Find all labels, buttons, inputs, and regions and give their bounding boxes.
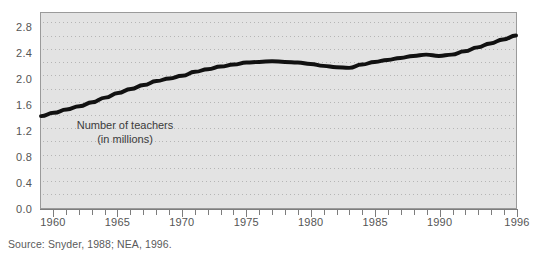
x-axis-line (40, 209, 517, 210)
x-tick-1961 (66, 209, 67, 215)
series-annotation: Number of teachers (in millions) (70, 118, 180, 146)
x-tick-1964 (105, 209, 106, 215)
y-tick-label-0.4: 0.4 (16, 178, 32, 189)
y-tick-label-0.8: 0.8 (16, 152, 32, 163)
x-tick-1988 (414, 209, 415, 215)
data-series-line (41, 13, 516, 208)
x-tick-1969 (169, 209, 170, 215)
series-annotation-line2: (in millions) (70, 132, 180, 146)
x-tick-1962 (79, 209, 80, 215)
x-tick-1994 (491, 209, 492, 215)
x-tick-1967 (143, 209, 144, 215)
x-tick-label-1985: 1985 (363, 216, 388, 229)
x-tick-1977 (272, 209, 273, 215)
series-annotation-line1: Number of teachers (77, 119, 174, 131)
y-tick-label-2.0: 2.0 (16, 74, 32, 85)
x-tick-1993 (478, 209, 479, 215)
teachers-line-chart-figure: 2.8 2.4 2.0 1.6 1.2 0.8 0.4 0.0 Number o… (0, 0, 538, 258)
x-tick-1973 (221, 209, 222, 215)
y-tick-label-2.4: 2.4 (16, 48, 32, 59)
x-tick-1981 (324, 209, 325, 215)
y-tick-label-2.8: 2.8 (16, 22, 32, 33)
x-tick-label-1980: 1980 (298, 216, 323, 229)
x-tick-1987 (401, 209, 402, 215)
x-tick-1986 (388, 209, 389, 215)
x-tick-1984 (362, 209, 363, 215)
plot-area (40, 12, 517, 209)
x-tick-1968 (156, 209, 157, 215)
y-tick-label-1.2: 1.2 (16, 126, 32, 137)
x-tick-1989 (427, 209, 428, 215)
y-tick-label-0.0: 0.0 (16, 204, 32, 215)
x-tick-1983 (349, 209, 350, 215)
x-tick-1972 (208, 209, 209, 215)
x-tick-label-1990: 1990 (427, 216, 452, 229)
x-tick-label-1996: 1996 (504, 216, 529, 229)
x-tick-1963 (92, 209, 93, 215)
x-tick-1995 (504, 209, 505, 215)
x-tick-1992 (465, 209, 466, 215)
x-tick-1966 (130, 209, 131, 215)
x-tick-1991 (453, 209, 454, 215)
x-tick-1971 (195, 209, 196, 215)
source-note: Source: Snyder, 1988; NEA, 1996. (8, 238, 172, 251)
x-tick-1979 (298, 209, 299, 215)
x-tick-1978 (285, 209, 286, 215)
x-axis-labels: 19601965197019751980198519901996 (0, 216, 538, 232)
x-tick-label-1970: 1970 (169, 216, 194, 229)
x-tick-label-1975: 1975 (234, 216, 259, 229)
x-tick-1976 (259, 209, 260, 215)
y-tick-label-1.6: 1.6 (16, 100, 32, 111)
x-tick-label-1965: 1965 (105, 216, 130, 229)
x-tick-1982 (337, 209, 338, 215)
x-tick-1974 (233, 209, 234, 215)
x-tick-label-1960: 1960 (40, 216, 65, 229)
